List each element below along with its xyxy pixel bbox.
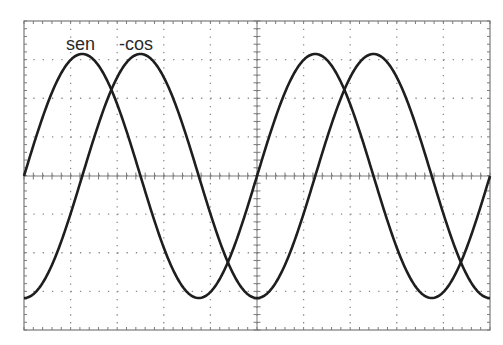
oscilloscope-chart: sen -cos (0, 0, 503, 345)
sen-label: sen (66, 34, 95, 54)
neg-cos-label: -cos (119, 34, 153, 54)
